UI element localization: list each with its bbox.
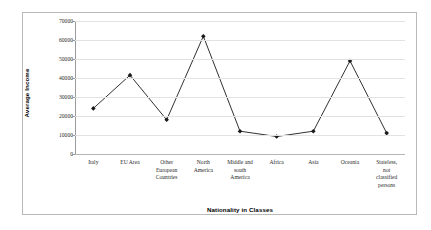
y-axis-tick-mark	[72, 154, 75, 155]
x-axis-tick-label-line: Stateless,	[359, 159, 415, 167]
x-axis-tick-label-line: Countries	[139, 174, 195, 182]
data-point-marker	[201, 34, 206, 39]
y-axis-tick-label: 50000	[37, 56, 73, 62]
chart-figure: Average Income 0100002000030000400005000…	[22, 12, 417, 215]
y-axis-tick-label: 70000	[37, 18, 73, 24]
y-axis-tick-label: 0	[37, 151, 73, 157]
gridline	[75, 40, 405, 41]
gridline	[75, 59, 405, 60]
x-axis-tick-labels: ItalyEU AreaOtherEuropeanCountriesNorthA…	[75, 159, 405, 205]
y-axis-tick-mark	[72, 78, 75, 79]
y-axis-tick-mark	[72, 116, 75, 117]
y-axis-tick-label: 20000	[37, 113, 73, 119]
gridline	[75, 97, 405, 98]
plot-area	[75, 21, 405, 154]
series-line	[93, 36, 386, 136]
x-axis-tick-label-line: not	[359, 167, 415, 175]
y-axis-tick-mark	[72, 135, 75, 136]
y-axis-title: Average Income	[20, 51, 34, 135]
y-axis-tick-labels: 010000200003000040000500006000070000	[37, 21, 73, 154]
x-axis-title: Nationality in Classes	[75, 206, 405, 213]
data-point-marker	[238, 129, 243, 134]
y-axis-tick-label: 40000	[37, 75, 73, 81]
gridline	[75, 135, 405, 136]
x-axis-tick-label-line: persons	[359, 182, 415, 190]
plot-wrapper: Average Income 0100002000030000400005000…	[23, 13, 416, 214]
x-axis-tick-label-line: classified	[359, 174, 415, 182]
y-axis-tick-label: 60000	[37, 37, 73, 43]
y-axis-tick-mark	[72, 40, 75, 41]
y-axis-tick-label: 10000	[37, 132, 73, 138]
gridline	[75, 78, 405, 79]
x-axis-tick-label: Stateless,notclassifiedpersons	[359, 159, 415, 189]
data-point-marker	[311, 129, 316, 134]
gridline	[75, 21, 405, 22]
y-axis-tick-mark	[72, 97, 75, 98]
y-axis-tick-label: 30000	[37, 94, 73, 100]
y-axis-tick-mark	[72, 21, 75, 22]
gridline	[75, 116, 405, 117]
gridline	[75, 154, 405, 155]
x-axis-tick-label-line: south	[212, 167, 268, 175]
y-axis-tick-mark	[72, 59, 75, 60]
x-axis-tick-label-line: America	[212, 174, 268, 182]
